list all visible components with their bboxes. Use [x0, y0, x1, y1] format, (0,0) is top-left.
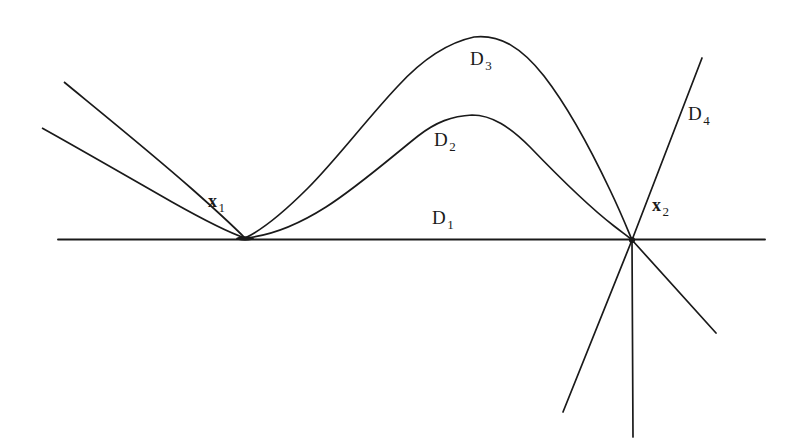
label-d3-sub: 3	[485, 58, 492, 73]
label-d1-base: D	[432, 207, 446, 228]
ray-down-left	[563, 240, 632, 412]
label-x1-base: x	[208, 191, 218, 211]
label-d2: D2	[434, 130, 455, 149]
label-d1: D1	[432, 208, 453, 227]
label-d2-sub: 2	[449, 139, 456, 154]
label-d4-base: D	[688, 103, 702, 124]
curve-d3	[64, 37, 632, 240]
tangency-point-x1	[236, 236, 254, 240]
figure-canvas: D1 D2 D3 D4 x1 x2	[0, 0, 799, 447]
label-x1: x1	[208, 192, 225, 210]
ray-vertical-down	[632, 240, 633, 437]
label-x2: x2	[652, 196, 669, 214]
curve-d2	[42, 115, 632, 240]
label-d4: D4	[688, 104, 709, 123]
crossing-point-x2	[629, 237, 635, 243]
label-x2-sub: 2	[663, 204, 670, 219]
label-x1-sub: 1	[219, 200, 226, 215]
label-d4-sub: 4	[703, 113, 710, 128]
label-x2-base: x	[652, 195, 662, 215]
label-d3-base: D	[470, 48, 484, 69]
label-d1-sub: 1	[447, 217, 454, 232]
curves-svg	[0, 0, 799, 447]
ray-down-right	[632, 240, 716, 333]
label-d3: D3	[470, 49, 491, 68]
label-d2-base: D	[434, 129, 448, 150]
